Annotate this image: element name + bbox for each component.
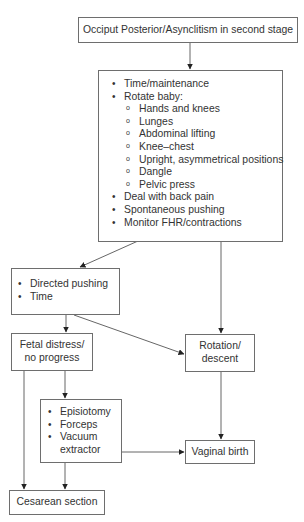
fetal-distress-line1: Fetal distress/	[20, 339, 85, 352]
interventions-node: Episiotomy Forceps Vacuum extractor	[40, 399, 122, 463]
list-item: Episiotomy	[46, 406, 121, 419]
list-item: Directed pushing	[16, 278, 119, 291]
management-list: Time/maintenance Rotate baby: Hands and …	[110, 78, 282, 229]
list-item: Time/maintenance	[110, 78, 282, 91]
sub-list-item: Pelvic press	[110, 179, 282, 192]
sub-list-item: Lunges	[110, 116, 282, 129]
list-item-continuation: extractor	[46, 444, 121, 457]
sub-list-item: Hands and knees	[110, 103, 282, 116]
cesarean-section-label: Cesarean section	[17, 496, 98, 509]
list-item: Vacuum	[46, 431, 121, 444]
sub-list-item: Upright, asymmetrical positions	[110, 154, 282, 167]
list-item: Forceps	[46, 419, 121, 432]
cesarean-section-node: Cesarean section	[9, 490, 105, 515]
list-item: Spontaneous pushing	[110, 204, 282, 217]
list-item: Monitor FHR/contractions	[110, 217, 282, 230]
rotation-line2: descent	[202, 353, 238, 366]
rotation-descent-node: Rotation/ descent	[185, 334, 255, 372]
directed-pushing-list: Directed pushing Time	[16, 278, 119, 303]
interventions-list: Episiotomy Forceps Vacuum extractor	[46, 406, 121, 456]
vaginal-birth-node: Vaginal birth	[185, 440, 255, 464]
vaginal-birth-label: Vaginal birth	[192, 446, 249, 459]
sub-list-item: Dangle	[110, 166, 282, 179]
list-item: Time	[16, 291, 119, 304]
sub-list-item: Abdominal lifting	[110, 128, 282, 141]
arrow-management-to-directed	[80, 241, 138, 267]
management-node: Time/maintenance Rotate baby: Hands and …	[98, 70, 283, 242]
directed-pushing-node: Directed pushing Time	[11, 268, 120, 315]
fetal-distress-node: Fetal distress/ no progress	[11, 333, 93, 371]
rotation-line1: Rotation/	[199, 340, 241, 353]
list-item: Deal with back pain	[110, 191, 282, 204]
fetal-distress-line2: no progress	[25, 352, 80, 365]
start-node-label: Occiput Posterior/Asynclitism in second …	[83, 24, 293, 37]
list-item: Rotate baby:	[110, 91, 282, 104]
start-node-occiput-posterior: Occiput Posterior/Asynclitism in second …	[78, 17, 298, 43]
sub-list-item: Knee–chest	[110, 141, 282, 154]
